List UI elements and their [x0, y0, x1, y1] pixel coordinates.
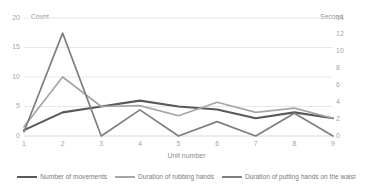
left-axis-tick: 20	[4, 14, 20, 21]
line-chart: Count Second 05101520 02468101214 123456…	[0, 0, 373, 193]
x-axis-tick: 9	[326, 140, 340, 147]
legend-swatch-icon	[222, 176, 242, 178]
legend-item-2[interactable]: Duration of putting hands on the waist	[222, 174, 356, 181]
left-axis-tick: 15	[4, 43, 20, 50]
legend-item-1[interactable]: Duration of rubbing hands	[115, 174, 214, 181]
legend-swatch-icon	[115, 176, 135, 178]
x-axis-tick: 8	[287, 140, 301, 147]
left-axis-tick: 5	[4, 102, 20, 109]
legend-item-0[interactable]: Number of movements	[17, 174, 107, 181]
series-line-1	[24, 77, 333, 127]
right-axis-tick: 14	[336, 14, 352, 21]
right-axis-tick: 8	[336, 64, 352, 71]
x-axis-tick: 7	[249, 140, 263, 147]
series-line-2	[24, 33, 333, 136]
left-axis-tick: 10	[4, 73, 20, 80]
right-axis-tick: 2	[336, 115, 352, 122]
chart-legend: Number of movementsDuration of rubbing h…	[0, 174, 373, 181]
legend-swatch-icon	[17, 176, 37, 178]
left-axis-tick: 0	[4, 132, 20, 139]
x-axis-tick: 4	[133, 140, 147, 147]
right-axis-tick: 12	[336, 30, 352, 37]
plot-area	[0, 0, 373, 193]
x-axis-title: Unit number	[0, 152, 373, 159]
series-lines	[24, 33, 333, 136]
legend-label: Duration of rubbing hands	[138, 174, 214, 181]
legend-label: Number of movements	[40, 174, 107, 181]
right-axis-tick: 0	[336, 132, 352, 139]
x-axis-tick: 5	[172, 140, 186, 147]
x-axis-tick: 2	[56, 140, 70, 147]
right-axis-tick: 6	[336, 81, 352, 88]
x-axis-tick: 1	[17, 140, 31, 147]
x-axis-tick: 3	[94, 140, 108, 147]
right-axis-tick: 10	[336, 47, 352, 54]
x-axis-tick: 6	[210, 140, 224, 147]
right-axis-tick: 4	[336, 98, 352, 105]
legend-label: Duration of putting hands on the waist	[245, 174, 356, 181]
